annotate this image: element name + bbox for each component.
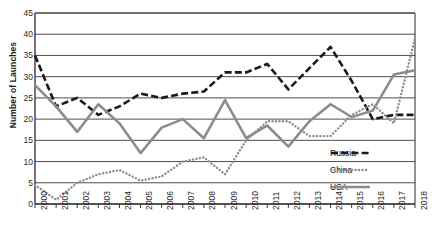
x-tick-2015: 2015 bbox=[355, 191, 365, 210]
x-tick-2016: 2016 bbox=[376, 191, 386, 210]
x-tick-2011: 2011 bbox=[271, 192, 281, 210]
launches-line-chart: Number of Launches 051015202530354045 20… bbox=[0, 0, 433, 247]
x-tick-2008: 2008 bbox=[207, 191, 217, 210]
x-tick-2017: 2017 bbox=[397, 191, 407, 210]
legend-item-usa[interactable]: USA bbox=[330, 182, 347, 192]
legend-swatch-russia bbox=[330, 148, 370, 158]
x-tick-2012: 2012 bbox=[292, 191, 302, 210]
x-tick-2005: 2005 bbox=[144, 191, 154, 210]
legend-swatch-usa bbox=[330, 182, 370, 192]
x-tick-2018: 2018 bbox=[419, 191, 429, 210]
x-tick-2007: 2007 bbox=[186, 191, 196, 210]
x-tick-2004: 2004 bbox=[123, 191, 133, 210]
series-line-russia bbox=[35, 47, 415, 119]
x-tick-2000: 2000 bbox=[39, 191, 49, 210]
x-tick-2006: 2006 bbox=[165, 191, 175, 210]
x-tick-2013: 2013 bbox=[313, 191, 323, 210]
x-tick-2003: 2003 bbox=[102, 191, 112, 210]
legend-swatch-china bbox=[330, 165, 370, 175]
legend-item-china[interactable]: China bbox=[330, 165, 352, 175]
x-tick-2002: 2002 bbox=[81, 191, 91, 210]
x-tick-2014: 2014 bbox=[334, 191, 344, 210]
x-tick-2001: 2001 bbox=[60, 191, 70, 210]
x-tick-2010: 2010 bbox=[250, 191, 260, 210]
legend-item-russia[interactable]: Russia bbox=[330, 148, 356, 158]
x-tick-2009: 2009 bbox=[229, 191, 239, 210]
